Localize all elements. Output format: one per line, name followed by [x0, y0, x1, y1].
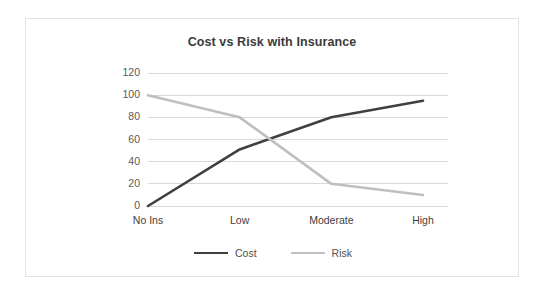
- y-tick-label: 40: [96, 155, 140, 167]
- series-lines: [148, 95, 423, 206]
- y-tick-label: 20: [96, 177, 140, 189]
- legend-line-icon: [194, 252, 228, 254]
- chart-svg: [26, 19, 520, 278]
- legend-item-risk[interactable]: Risk: [291, 247, 352, 259]
- plot-area: 020406080100120 No InsLowModerateHigh: [26, 19, 520, 278]
- x-tick-label: Moderate: [286, 214, 376, 226]
- chart-container: Cost vs Risk with Insurance 020406080100…: [25, 18, 519, 277]
- legend-label: Risk: [332, 247, 352, 259]
- legend-label: Cost: [235, 247, 257, 259]
- legend-item-cost[interactable]: Cost: [194, 247, 257, 259]
- y-tick-label: 0: [96, 199, 140, 211]
- x-tick-label: No Ins: [103, 214, 193, 226]
- gridlines: [148, 73, 448, 206]
- y-tick-label: 100: [96, 88, 140, 100]
- y-tick-label: 120: [96, 66, 140, 78]
- x-tick-label: High: [378, 214, 468, 226]
- x-tick-label: Low: [195, 214, 285, 226]
- chart-legend: CostRisk: [26, 247, 520, 259]
- y-tick-label: 60: [96, 133, 140, 145]
- legend-line-icon: [291, 252, 325, 254]
- y-tick-label: 80: [96, 110, 140, 122]
